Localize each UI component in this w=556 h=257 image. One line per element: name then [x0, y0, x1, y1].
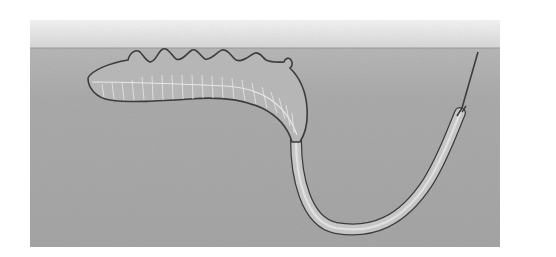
animal-illustration — [0, 0, 556, 257]
surface-band — [30, 20, 500, 48]
illustration-canvas — [0, 0, 556, 257]
